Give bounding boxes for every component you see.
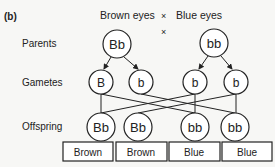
gamete-allele: b: [138, 76, 145, 90]
row-label-parents: Parents: [22, 38, 56, 49]
offspring-genotype: bb: [188, 120, 202, 135]
gamete-3: b: [183, 70, 207, 94]
gamete-1: B: [89, 70, 113, 94]
offspring-2: Bb: [124, 113, 152, 141]
parent-genotype: bb: [207, 36, 221, 51]
offspring-3: bb: [181, 113, 209, 141]
offspring-genotype: Bb: [130, 120, 146, 135]
parent-genotype: Bb: [109, 37, 125, 52]
parent-gamete-arrows: [104, 56, 232, 69]
phenotype-label: Blue: [237, 147, 257, 158]
figure-label: (b): [4, 11, 17, 22]
cross-symbol-header: ×: [161, 11, 166, 21]
gamete-offspring-lines: [101, 94, 236, 113]
phenotype-label: Brown: [127, 147, 155, 158]
phenotype-box-3: Blue: [169, 142, 220, 161]
row-label-gametes: Gametes: [22, 77, 63, 88]
offspring-genotype: Bb: [93, 120, 109, 135]
offspring-genotype: bb: [228, 120, 242, 135]
row-label-offspring: Offspring: [22, 121, 62, 132]
gamete-allele: b: [192, 76, 199, 90]
gamete-2: b: [129, 70, 153, 94]
phenotype-box-1: Brown: [63, 142, 113, 161]
phenotype-box-4: Blue: [222, 142, 272, 161]
phenotype-box-2: Brown: [116, 142, 167, 161]
gamete-allele: b: [233, 76, 240, 90]
cross-symbol-parents: ×: [161, 27, 166, 37]
phenotype-label: Brown: [74, 147, 102, 158]
gamete-4: b: [224, 70, 248, 94]
parent-bb-brown: Bb: [103, 30, 131, 58]
phenotype-label: Blue: [184, 147, 204, 158]
parent-right-phenotype: Blue eyes: [176, 9, 222, 21]
offspring-4: bb: [221, 113, 249, 141]
parent-bb-blue: bb: [200, 29, 228, 57]
offspring-1: Bb: [87, 113, 115, 141]
gamete-allele: B: [97, 76, 105, 90]
parent-left-phenotype: Brown eyes: [100, 9, 155, 21]
genetic-cross-diagram: (b) Brown eyes × Blue eyes × Parents Gam…: [0, 0, 275, 167]
